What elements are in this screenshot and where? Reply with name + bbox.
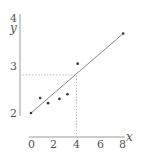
fit-line-segment [31, 34, 123, 113]
x-axis-label: x [126, 130, 133, 144]
y-axis-label: y [9, 21, 17, 35]
data-point [39, 97, 42, 100]
data-point [30, 112, 33, 115]
data-point [122, 32, 125, 35]
scatter-chart: 4 y 3 2 0 2 4 6 8 x [0, 0, 142, 160]
data-point [76, 62, 79, 65]
y-tick-label-3: 3 [10, 60, 17, 73]
data-point [58, 98, 61, 101]
x-tick-label-4: 4 [73, 138, 80, 151]
x-tick-label-6: 6 [97, 138, 104, 151]
data-point [66, 93, 69, 96]
data-point [47, 102, 50, 105]
x-tick-label-8: 8 [119, 138, 126, 151]
dotted-guides [20, 75, 77, 137]
x-tick-label-2: 2 [50, 138, 57, 151]
y-tick-label-2: 2 [10, 107, 17, 120]
x-tick-label-0: 0 [28, 138, 35, 151]
best-fit-line [31, 34, 123, 113]
